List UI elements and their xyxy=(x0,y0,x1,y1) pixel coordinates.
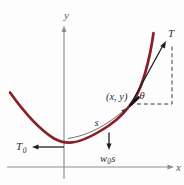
weight-label: w0s xyxy=(100,153,115,167)
tension-vector-line xyxy=(130,45,164,107)
tension0-subscript: 0 xyxy=(23,146,27,155)
tension0-label: T0 xyxy=(16,140,27,155)
y-axis-arrowhead xyxy=(62,26,67,33)
point-label: (x, y) xyxy=(106,91,128,103)
weight-arrowhead xyxy=(107,144,112,151)
angle-label: θ xyxy=(139,90,144,101)
weight-base: w xyxy=(100,153,107,164)
arc-length-label: s xyxy=(94,117,98,128)
y-axis-label: y xyxy=(63,9,69,21)
x-axis-arrowhead xyxy=(168,165,175,170)
cable-force-diagram: x y s T θ (x, y) T0 w0s xyxy=(0,0,184,185)
tension-label: T xyxy=(168,27,175,39)
figure-container: x y s T θ (x, y) T0 w0s xyxy=(0,0,184,185)
x-axis-label: x xyxy=(175,161,181,173)
weight-mult: s xyxy=(111,153,115,164)
tension0-arrowhead xyxy=(32,145,39,150)
cable-curve xyxy=(10,33,154,143)
tension-vector-arrowhead xyxy=(160,41,166,48)
